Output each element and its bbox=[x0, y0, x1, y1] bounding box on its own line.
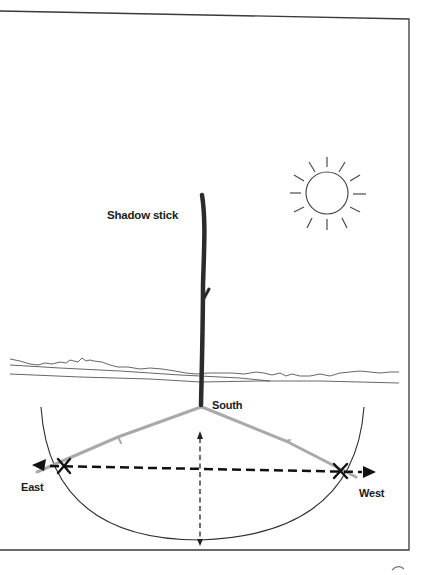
arrow-head-west bbox=[363, 466, 376, 478]
south-label: South bbox=[212, 399, 242, 411]
shadow-stick-label: Shadow stick bbox=[107, 209, 178, 221]
horizon-lines bbox=[10, 358, 399, 383]
east-label: East bbox=[21, 481, 43, 493]
shadow-line-west bbox=[202, 407, 356, 477]
north-south-dashed-arrow bbox=[197, 431, 203, 546]
arrow-head-east bbox=[32, 459, 46, 471]
corner-mark bbox=[392, 567, 404, 570]
sun-icon bbox=[290, 157, 366, 230]
west-label: West bbox=[359, 487, 384, 499]
shadow-arc bbox=[41, 407, 364, 540]
